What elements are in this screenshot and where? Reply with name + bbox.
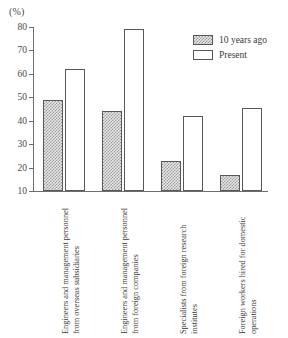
bar-present — [183, 116, 203, 191]
bar-past — [161, 161, 181, 191]
bar-past — [102, 111, 122, 191]
legend: 10 years ago Present — [193, 35, 267, 65]
bar-chart: (%) 1020304050607080 10 years ago Presen… — [0, 0, 288, 338]
category-label: Specialists from foreign research instit… — [179, 196, 200, 334]
y-tick-label: 50 — [18, 92, 28, 102]
legend-item-present: Present — [193, 50, 267, 60]
legend-label-present: Present — [219, 50, 247, 60]
bar-present — [124, 29, 144, 191]
category-label: Engineers and management personnel from … — [61, 196, 82, 334]
bar-group — [92, 27, 151, 191]
y-tick-mark — [29, 191, 33, 192]
y-tick-label: 40 — [18, 116, 28, 126]
legend-label-past: 10 years ago — [219, 35, 267, 45]
y-tick-label: 70 — [18, 45, 28, 55]
category-label-text: Specialists from foreign research instit… — [179, 196, 200, 334]
hatched-swatch-icon — [193, 35, 213, 45]
category-label-text: Engineers and management personnel from … — [61, 196, 82, 334]
y-tick-label: 30 — [18, 139, 28, 149]
y-tick-label: 80 — [18, 22, 28, 32]
bar-past — [43, 100, 63, 191]
bar-past — [220, 175, 240, 191]
y-tick-label: 10 — [18, 186, 28, 196]
x-axis-line — [33, 191, 268, 192]
bar-present — [65, 69, 85, 191]
bar-present — [242, 108, 262, 191]
category-label-text: Engineers and management personnel from … — [120, 196, 141, 334]
category-label: Foreign workers hired for domestic opera… — [238, 196, 259, 334]
legend-item-past: 10 years ago — [193, 35, 267, 45]
y-tick-label: 20 — [18, 163, 28, 173]
y-axis-unit-label: (%) — [9, 6, 25, 17]
white-swatch-icon — [193, 50, 213, 60]
category-label: Engineers and management personnel from … — [120, 196, 141, 334]
bar-group — [33, 27, 92, 191]
category-label-text: Foreign workers hired for domestic opera… — [238, 196, 259, 334]
y-tick-label: 60 — [18, 69, 28, 79]
